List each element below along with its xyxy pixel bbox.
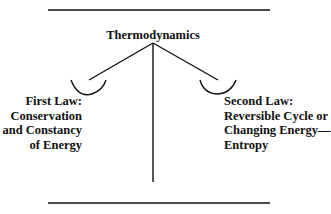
first-law-label: First Law: Conservation and Constancy of… <box>2 94 82 152</box>
second-law-line-1: Second Law: <box>224 94 331 109</box>
first-law-line-4: of Energy <box>2 138 82 153</box>
second-law-line-2: Reversible Cycle or <box>224 109 331 124</box>
right-arm <box>153 43 218 80</box>
diagram-title: Thermodynamics <box>0 28 306 43</box>
left-arm <box>89 43 153 80</box>
right-pan <box>200 80 236 94</box>
left-pan <box>71 80 106 95</box>
first-law-line-2: Conservation <box>2 109 82 124</box>
second-law-line-3: Changing Energy— <box>224 123 331 138</box>
second-law-label: Second Law: Reversible Cycle or Changing… <box>224 94 331 152</box>
first-law-line-1: First Law: <box>2 94 82 109</box>
first-law-line-3: and Constancy <box>2 123 82 138</box>
second-law-line-4: Entropy <box>224 138 331 153</box>
